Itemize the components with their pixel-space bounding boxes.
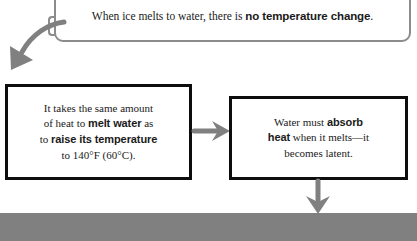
box-right-line2-c: when it melts—it (290, 131, 369, 143)
box-left-line1: It takes the same amount (44, 102, 153, 114)
box-left-text: It takes the same amountof heat to melt … (34, 101, 163, 163)
arrow-right-icon (192, 118, 232, 144)
box-left-line4: to 140°F (60°C). (62, 149, 136, 161)
box-right-text: Water must absorbheat when it melts—itbe… (262, 115, 375, 162)
box-right-line1-bold: absorb (327, 116, 363, 128)
curved-arrow-down-left-icon (2, 18, 82, 80)
callout-text-before: When ice melts to water, there is (92, 10, 245, 22)
box-left-line2-bold: melt water (88, 117, 141, 129)
box-water-absorbs-heat: Water must absorbheat when it melts—itbe… (229, 96, 408, 180)
box-right-line3: becomes latent. (284, 147, 352, 159)
box-left-line3-bold: raise its temperature (51, 133, 157, 145)
box-right-line2-bold: heat (268, 131, 290, 143)
diagram-canvas: When ice melts to water, there is no tem… (0, 0, 417, 241)
callout-text-after: . (370, 10, 373, 22)
box-right-line1-a: Water must (274, 116, 327, 128)
callout-box-temperature: When ice melts to water, there is no tem… (54, 0, 411, 42)
arrow-down-icon (300, 180, 336, 216)
box-left-line3-a: to (40, 133, 51, 145)
box-heat-to-melt-water: It takes the same amountof heat to melt … (5, 84, 192, 180)
callout-text: When ice melts to water, there is no tem… (84, 9, 381, 23)
callout-text-bold: no temperature change (245, 10, 370, 22)
box-left-line2-c: as (141, 117, 153, 129)
box-left-line2-a: of heat to (44, 117, 88, 129)
bottom-banner-bar (0, 213, 417, 241)
